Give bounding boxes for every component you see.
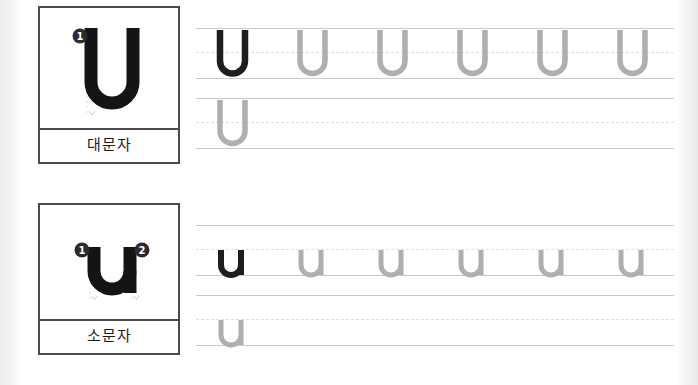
practice-row-uppercase-1[interactable] xyxy=(196,28,674,80)
svg-text:2: 2 xyxy=(139,245,146,256)
practice-letter-uppercase xyxy=(620,30,645,73)
model-card-label-uppercase: 대문자 xyxy=(40,130,178,162)
practice-letters-uppercase-1 xyxy=(196,28,674,80)
practice-row-lowercase-2[interactable] xyxy=(196,295,674,347)
practice-letter-lowercase xyxy=(621,250,641,275)
practice-letter-uppercase xyxy=(220,100,245,143)
section-lowercase: 1 2 소문자 xyxy=(0,193,698,385)
practice-letter-lowercase xyxy=(221,320,241,345)
model-letter-lowercase-u: 1 2 xyxy=(40,205,178,321)
practice-letter-uppercase xyxy=(380,30,405,73)
section-uppercase: 1 대문자 xyxy=(0,0,698,190)
stroke-order-marker-1: 1 xyxy=(73,29,88,44)
practice-letter-uppercase xyxy=(220,30,245,73)
model-letter-uppercase-U: 1 xyxy=(40,8,178,130)
practice-row-lowercase-1[interactable] xyxy=(196,225,674,277)
practice-letters-lowercase-2 xyxy=(196,295,674,347)
model-card-lowercase: 1 2 소문자 xyxy=(38,203,180,355)
practice-letter-lowercase xyxy=(301,250,321,275)
practice-letter-uppercase xyxy=(540,30,565,73)
model-card-label-lowercase: 소문자 xyxy=(40,321,178,353)
stroke-order-marker-1: 1 xyxy=(75,243,90,258)
model-glyph-area-uppercase: 1 xyxy=(40,8,178,130)
practice-letter-lowercase xyxy=(381,250,401,275)
model-card-uppercase: 1 대문자 xyxy=(38,6,180,164)
stroke-order-marker-2: 2 xyxy=(135,243,150,258)
practice-letter-lowercase xyxy=(221,250,241,275)
svg-text:1: 1 xyxy=(77,31,84,42)
practice-row-uppercase-2[interactable] xyxy=(196,98,674,150)
practice-letter-uppercase xyxy=(300,30,325,73)
practice-letter-lowercase xyxy=(461,250,481,275)
practice-letter-lowercase xyxy=(541,250,561,275)
worksheet-page: 1 대문자 xyxy=(0,0,698,385)
practice-letter-uppercase xyxy=(460,30,485,73)
practice-letters-lowercase-1 xyxy=(196,225,674,277)
model-glyph-area-lowercase: 1 2 xyxy=(40,205,178,321)
practice-letters-uppercase-2 xyxy=(196,98,674,150)
svg-text:1: 1 xyxy=(79,245,86,256)
